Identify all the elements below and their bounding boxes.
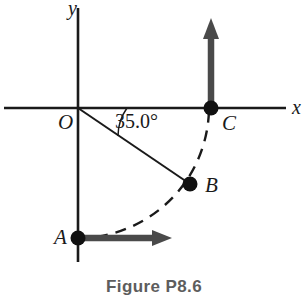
velocity-arrow-at-A: [80, 230, 172, 246]
point-marker-B: [183, 177, 198, 192]
arrow-head-C: [203, 18, 219, 39]
point-marker-C: [204, 101, 219, 116]
x-axis-label: x: [292, 97, 301, 117]
arrow-head-A: [152, 230, 172, 246]
point-label-B: B: [205, 175, 218, 196]
origin-label-O: O: [58, 112, 73, 133]
velocity-arrow-at-C: [203, 18, 219, 106]
point-label-C: C: [222, 113, 236, 134]
y-axis-label: y: [68, 0, 77, 18]
figure-caption: Figure P8.6: [0, 277, 308, 297]
angle-label: 35.0°: [115, 111, 158, 131]
point-label-A: A: [54, 227, 67, 248]
point-marker-A: [71, 231, 86, 246]
